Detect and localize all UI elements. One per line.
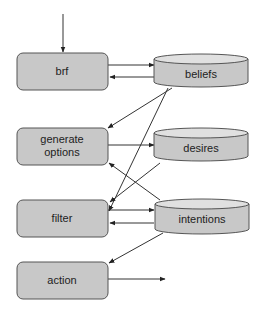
store-intentions: intentions — [155, 199, 249, 234]
process-generate-options: generate options — [17, 128, 108, 165]
bdi-diagram: brf generate options filter action belie… — [0, 0, 264, 316]
generate-options-label-1: generate — [40, 133, 83, 145]
intentions-label: intentions — [178, 213, 226, 225]
filter-label: filter — [52, 212, 73, 224]
beliefs-label: beliefs — [185, 68, 217, 80]
brf-label: brf — [56, 65, 70, 77]
edge-beliefs-generate — [108, 88, 172, 128]
generate-options-label-2: options — [44, 146, 80, 158]
process-action: action — [17, 262, 108, 299]
edge-intentions-action — [109, 233, 163, 263]
action-label: action — [47, 274, 76, 286]
store-beliefs: beliefs — [154, 54, 248, 87]
process-brf: brf — [17, 53, 108, 90]
process-filter: filter — [17, 200, 108, 237]
desires-label: desires — [183, 142, 219, 154]
store-desires: desires — [154, 128, 248, 161]
